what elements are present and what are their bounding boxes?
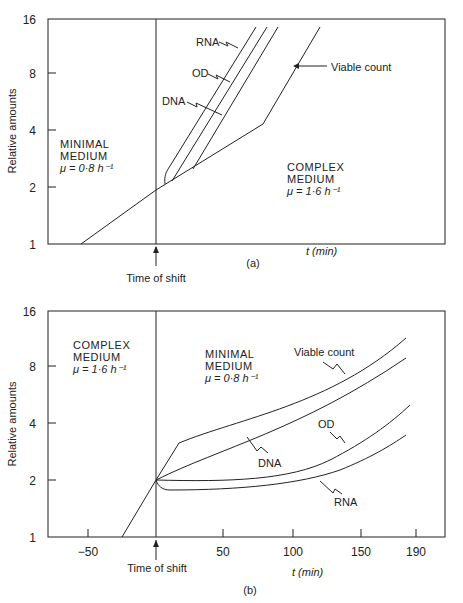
y-tick-label: 8 bbox=[29, 67, 36, 81]
y-tick-label: 16 bbox=[23, 13, 37, 27]
x-tick-label: 100 bbox=[283, 545, 303, 559]
x-tick-label: 150 bbox=[351, 545, 371, 559]
label-viable-count: Viable count bbox=[331, 61, 391, 73]
shift-label: Time of shift bbox=[127, 562, 187, 574]
arrowhead-icon bbox=[153, 246, 159, 253]
plot-frame bbox=[48, 19, 445, 244]
y-tick-label: 2 bbox=[29, 474, 36, 488]
x-tick-label: −50 bbox=[78, 545, 99, 559]
region-left-line1: MINIMAL bbox=[60, 138, 109, 150]
region-left-rate: μ = 0·8 h⁻¹ bbox=[59, 162, 114, 174]
series-od bbox=[156, 405, 410, 481]
region-right-line2: MEDIUM bbox=[205, 360, 253, 372]
label-rna: RNA bbox=[334, 496, 358, 508]
region-right-line2: MEDIUM bbox=[287, 173, 335, 185]
panel-b: 16 8 4 2 1 Relative amounts −50 50 100 1… bbox=[6, 305, 445, 596]
pointer-rna-icon bbox=[219, 42, 238, 48]
pointer-od-icon bbox=[330, 432, 345, 443]
label-dna: DNA bbox=[258, 457, 282, 469]
shift-label: Time of shift bbox=[126, 272, 186, 284]
x-axis-label: t (min) bbox=[292, 566, 324, 578]
label-od: OD bbox=[192, 67, 209, 79]
panel-label: (a) bbox=[246, 257, 259, 269]
region-left-line2: MEDIUM bbox=[60, 150, 108, 162]
y-tick-label: 8 bbox=[29, 360, 36, 374]
series-od bbox=[172, 27, 267, 181]
region-left-line2: MEDIUM bbox=[73, 351, 121, 363]
region-right-line1: MINIMAL bbox=[205, 348, 254, 360]
panel-a: 16 8 4 2 1 Relative amounts Time of shif… bbox=[6, 13, 445, 284]
y-tick-label: 1 bbox=[29, 531, 36, 545]
region-right-rate: μ = 0·8 h⁻¹ bbox=[204, 372, 259, 384]
label-rna: RNA bbox=[196, 36, 220, 48]
y-tick-label: 1 bbox=[29, 238, 36, 252]
pointer-viable-icon bbox=[323, 362, 345, 374]
y-axis-label: Relative amounts bbox=[6, 381, 18, 466]
pointer-rna-icon bbox=[320, 481, 342, 494]
series-dna bbox=[193, 27, 278, 169]
pointer-dna-icon bbox=[247, 437, 268, 453]
region-left-rate: μ = 1·6 h⁻¹ bbox=[72, 363, 127, 375]
y-tick-label: 16 bbox=[23, 305, 37, 319]
label-od: OD bbox=[318, 418, 335, 430]
arrowhead-icon bbox=[153, 540, 159, 547]
x-tick-label: 50 bbox=[216, 545, 230, 559]
label-dna: DNA bbox=[162, 95, 186, 107]
y-tick-label: 4 bbox=[29, 417, 36, 431]
region-left-line1: COMPLEX bbox=[73, 339, 130, 351]
figure: 16 8 4 2 1 Relative amounts Time of shif… bbox=[0, 0, 463, 603]
series-viable-count bbox=[122, 338, 406, 537]
region-right-line1: COMPLEX bbox=[287, 161, 344, 173]
x-tick-label: 190 bbox=[406, 545, 426, 559]
region-right-rate: μ = 1·6 h⁻¹ bbox=[286, 185, 341, 197]
y-axis-label: Relative amounts bbox=[6, 88, 18, 173]
y-tick-label: 2 bbox=[29, 181, 36, 195]
y-tick-label: 4 bbox=[29, 124, 36, 138]
label-viable-count: Viable count bbox=[294, 346, 354, 358]
panel-label: (b) bbox=[243, 584, 256, 596]
x-axis-label: t (min) bbox=[306, 245, 338, 257]
